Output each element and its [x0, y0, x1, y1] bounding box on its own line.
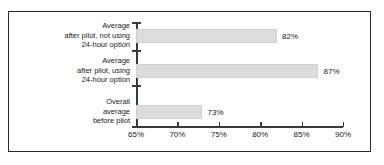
category-label-2-line-1: Average [4, 56, 130, 66]
x-tick-70 [177, 122, 178, 127]
y-axis-tick-1 [132, 50, 141, 52]
category-label-2-line-2: after pilot, using [4, 66, 130, 76]
category-label-1: Average after pilot, not using 24-hour o… [4, 21, 130, 50]
bar-value-label-3: 73% [208, 108, 224, 117]
category-label-1-line-2: after pilot, not using [4, 31, 130, 41]
x-tick-label-75: 75% [199, 130, 239, 139]
x-tick-80 [260, 122, 261, 127]
x-tick-label-85: 85% [282, 130, 322, 139]
x-axis-line [136, 126, 343, 128]
category-label-2: Average after pilot, using 24-hour optio… [4, 56, 130, 85]
category-label-1-line-3: 24-hour option [4, 40, 130, 50]
plot-area: 65% 70% 75% 80% 85% 90% 82% 87% 73% Aver… [0, 0, 384, 165]
x-tick-label-90: 90% [323, 130, 363, 139]
category-label-1-line-1: Average [4, 21, 130, 31]
bar-overall-average-before-pilot [136, 105, 202, 119]
x-tick-label-80: 80% [240, 130, 280, 139]
x-tick-label-65: 65% [116, 130, 156, 139]
bar-average-after-pilot-not-using [136, 29, 277, 43]
bar-value-label-2: 87% [324, 67, 340, 76]
category-label-3-line-1: Overall [4, 97, 130, 107]
category-label-3: Overall average before pilot [4, 97, 130, 126]
x-tick-90 [343, 122, 344, 127]
y-axis-tick-top [132, 22, 141, 24]
x-tick-85 [302, 122, 303, 127]
category-label-2-line-3: 24-hour option [4, 75, 130, 85]
category-label-3-line-3: before pilot [4, 116, 130, 126]
chart-figure: 65% 70% 75% 80% 85% 90% 82% 87% 73% Aver… [0, 0, 384, 165]
x-tick-label-70: 70% [157, 130, 197, 139]
x-tick-65 [136, 122, 137, 127]
x-tick-75 [219, 122, 220, 127]
y-axis-tick-2 [132, 85, 141, 87]
bar-value-label-1: 82% [282, 32, 298, 41]
bar-average-after-pilot-using [136, 64, 318, 78]
category-label-3-line-2: average [4, 107, 130, 117]
